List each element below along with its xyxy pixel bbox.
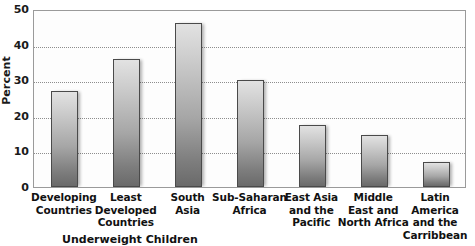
y-tick-label-40: 40 (0, 40, 29, 51)
x-tick-label-line: Latin America (397, 191, 473, 216)
bar-1 (113, 59, 140, 187)
bar-2 (175, 23, 202, 187)
bar-3 (237, 80, 264, 187)
x-tick-label-line: and the (397, 216, 473, 229)
x-axis-tick-labels: DevelopingCountriesLeastDevelopedCountri… (33, 191, 475, 237)
y-tick-label-50: 50 (0, 4, 29, 15)
plot-area (33, 10, 466, 188)
x-tick-label-line: Carribbean (397, 229, 473, 242)
figure-caption: Underweight Children (62, 233, 198, 246)
bar-6 (423, 162, 450, 187)
y-tick-label-0: 0 (0, 182, 29, 193)
x-tick-label-line: Countries (88, 216, 164, 229)
bar-5 (361, 135, 388, 187)
y-tick-label-30: 30 (0, 75, 29, 86)
bars-layer (34, 11, 465, 187)
bar-0 (51, 91, 78, 187)
y-tick-label-20: 20 (0, 111, 29, 122)
bar-4 (299, 125, 326, 187)
y-axis-tick-labels: 01020304050 (0, 0, 29, 243)
plot-inner (34, 11, 465, 187)
y-tick-label-10: 10 (0, 146, 29, 157)
x-tick-label-6: Latin Americaand theCarribbean (397, 191, 473, 241)
